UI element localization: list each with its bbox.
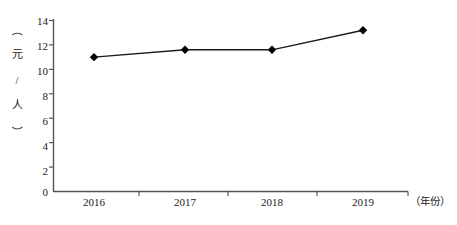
data-point-markers: [90, 26, 367, 61]
plot-area: [0, 0, 457, 225]
line-chart: （ 元 / 人 ） 14 12 10 8 6 4 2 0 2016 2017 2…: [0, 0, 457, 225]
data-point-marker: [90, 53, 98, 61]
data-point-marker: [268, 46, 276, 54]
data-series-line: [94, 30, 363, 57]
data-point-marker: [359, 26, 367, 34]
data-point-marker: [181, 46, 189, 54]
